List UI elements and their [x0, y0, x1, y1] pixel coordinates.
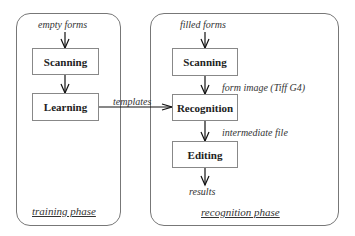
learning-box: Learning — [32, 93, 99, 121]
training-scanning-box: Scanning — [32, 48, 99, 75]
templates-label: templates — [113, 96, 151, 107]
intermediate-file-label: intermediate file — [222, 127, 288, 138]
filled-forms-label: filled forms — [180, 19, 226, 30]
recognition-phase-label: recognition phase — [201, 206, 280, 218]
form-image-label: form image (Tiff G4) — [222, 82, 305, 93]
results-label: results — [189, 186, 215, 197]
empty-forms-label: empty forms — [38, 19, 87, 30]
training-phase-label: training phase — [32, 205, 96, 217]
recognition-box: Recognition — [172, 94, 238, 121]
editing-box: Editing — [172, 141, 238, 168]
recognition-scanning-box: Scanning — [172, 48, 238, 76]
